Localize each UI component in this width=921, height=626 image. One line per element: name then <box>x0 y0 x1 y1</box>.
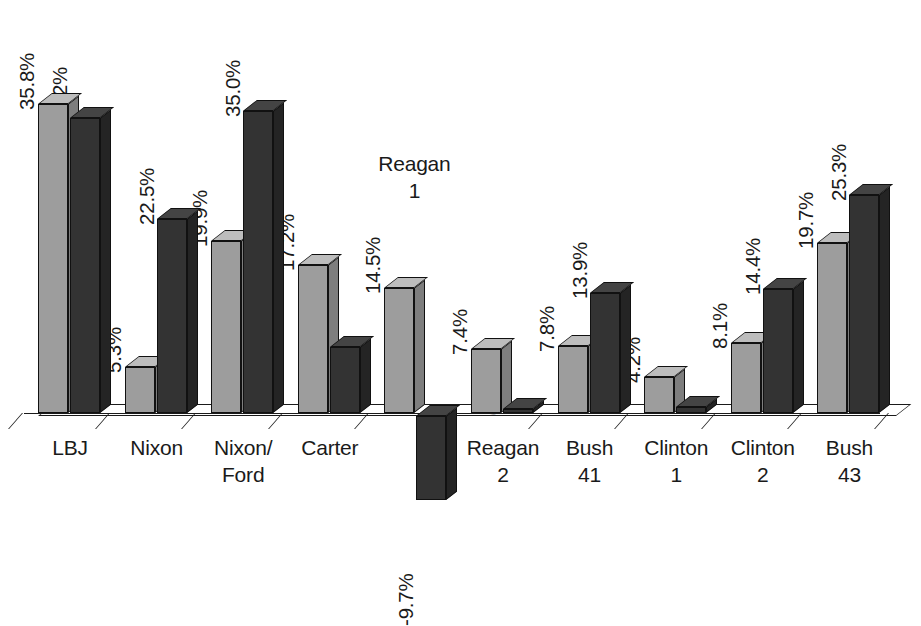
bar-series-2-1 <box>157 219 187 413</box>
value-label-series-2-8: 14.4% <box>741 238 765 295</box>
value-label-series-1-4: 14.5% <box>361 237 385 294</box>
bar-side-face <box>414 279 425 413</box>
bar-series-2-9 <box>849 195 879 413</box>
bar-series-1-6 <box>558 346 588 413</box>
bar-side-face <box>879 186 890 413</box>
bar-front-face <box>590 293 620 413</box>
value-label-series-1-0: 35.8% <box>15 53 39 110</box>
value-label-series-2-9: 25.3% <box>827 144 851 201</box>
bar-front-face <box>157 219 187 413</box>
value-label-series-2-1: 22.5% <box>135 168 159 225</box>
bar-side-face <box>187 210 198 413</box>
bar-front-face <box>849 195 879 413</box>
bar-series-1-4 <box>384 288 414 413</box>
bar-side-face <box>360 339 371 413</box>
bar-side-face <box>620 285 631 413</box>
value-label-series-2-6: 13.9% <box>568 242 592 299</box>
bar-front-face <box>676 407 706 413</box>
bar-side-face <box>273 103 284 413</box>
bar-front-face <box>503 409 533 413</box>
bar-front-face <box>763 289 793 413</box>
value-label-series-2-2: 35.0% <box>221 60 245 117</box>
bar-series-1-5 <box>471 349 501 413</box>
value-label-series-1-5: 7.4% <box>448 309 472 355</box>
bar-side-face <box>793 280 804 413</box>
bar-front-face <box>70 118 100 413</box>
bar-series-1-2 <box>211 241 241 413</box>
bar-series-1-8 <box>731 343 761 413</box>
bar-front-face <box>731 343 761 413</box>
value-label-series-1-9: 19.7% <box>794 192 818 249</box>
bar-front-face <box>471 349 501 413</box>
bar-front-face <box>243 111 273 413</box>
bar-series-1-3 <box>298 265 328 413</box>
bar-series-2-7 <box>676 407 706 413</box>
bar-series-1-0 <box>38 104 68 413</box>
category-label-3: Carter <box>272 434 388 461</box>
bar-front-face <box>558 346 588 413</box>
value-label-series-1-6: 7.8% <box>535 306 559 352</box>
bar-series-2-2 <box>243 111 273 413</box>
bar-series-1-9 <box>817 243 847 413</box>
category-label-4: Reagan 1 <box>356 150 472 204</box>
axis-tick-0 <box>8 413 37 429</box>
bar-side-face <box>100 110 111 413</box>
bar-series-2-0 <box>70 118 100 413</box>
bar-front-face <box>125 367 155 413</box>
bar-series-2-6 <box>590 293 620 413</box>
bar-front-face <box>644 377 674 413</box>
category-label-9: Bush 43 <box>791 434 907 488</box>
bar-front-face <box>330 347 360 413</box>
bar-front-face <box>384 288 414 413</box>
value-label-series-1-8: 8.1% <box>708 303 732 349</box>
bar-front-face <box>38 104 68 413</box>
bar-front-face <box>817 243 847 413</box>
bar-front-face <box>416 416 446 500</box>
bar-series-1-1 <box>125 367 155 413</box>
value-label-series-2-4: -9.7% <box>394 573 418 626</box>
bar-series-2-8 <box>763 289 793 413</box>
bar-series-2-4 <box>416 416 446 500</box>
bar-front-face <box>211 241 241 413</box>
bar-series-1-7 <box>644 377 674 413</box>
bar-series-2-5 <box>503 409 533 413</box>
bar-series-2-3 <box>330 347 360 413</box>
bar-front-face <box>298 265 328 413</box>
bar-side-face <box>446 407 457 499</box>
